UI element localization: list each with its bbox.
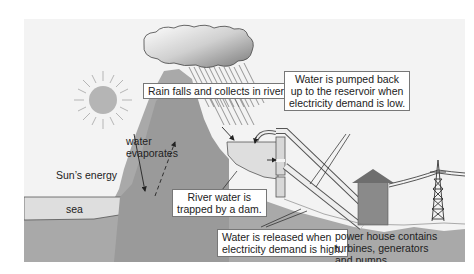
pumped-back-line-1: Water is pumped back	[289, 73, 405, 85]
released-label: Water is released when electricity deman…	[217, 229, 348, 257]
diagram-panel: Rain falls and collects in rivers. Water…	[24, 19, 465, 262]
rain-label-text: Rain falls and collects in rivers.	[148, 85, 292, 97]
power-house	[352, 169, 394, 225]
pumped-back-line-3: electricity demand is low.	[289, 97, 405, 109]
pylon	[430, 160, 446, 221]
dam-line-1: River water is	[177, 191, 262, 203]
river-flow-arrow	[222, 127, 234, 140]
power-house-line-1: power house contains	[335, 230, 437, 242]
released-line-2: electricity demand is high.	[222, 243, 343, 255]
released-line-1: Water is released when	[222, 231, 343, 243]
pumped-back-line-2: up to the reservoir when	[289, 85, 405, 97]
diagram-scene	[24, 19, 465, 262]
power-house-line-3: and pumps	[335, 254, 437, 262]
dam	[276, 137, 285, 197]
sun-energy-label: Sun’s energy	[56, 169, 117, 181]
evaporates-line-2: evaporates	[126, 147, 178, 159]
pumped-back-label: Water is pumped back up to the reservoir…	[284, 71, 410, 111]
rain-label: Rain falls and collects in rivers.	[143, 83, 297, 99]
sea-label: sea	[66, 203, 83, 215]
dam-line-2: trapped by a dam.	[177, 203, 262, 215]
power-house-line-2: turbines, generators	[335, 242, 437, 254]
power-house-label: power house contains turbines, generator…	[335, 230, 437, 262]
rain-cloud-icon	[144, 25, 254, 67]
power-lines	[389, 170, 465, 187]
sun-icon	[74, 71, 132, 129]
evaporates-label: water evaporates	[126, 135, 178, 159]
dam-label: River water is trapped by a dam.	[172, 189, 267, 217]
evaporates-line-1: water	[126, 135, 178, 147]
